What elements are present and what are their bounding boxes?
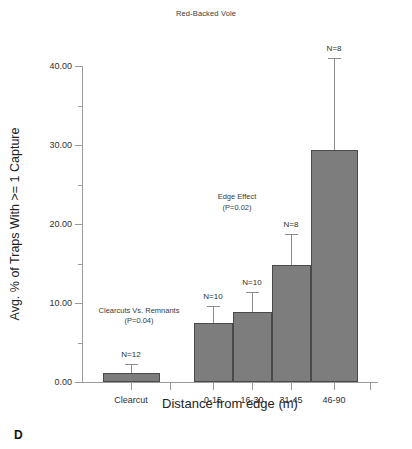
- y-tick-major: [75, 303, 83, 304]
- error-bar: [291, 234, 292, 265]
- y-tick-major: [75, 66, 83, 67]
- sample-size-label: N=12: [121, 350, 140, 359]
- error-bar-cap: [207, 306, 220, 307]
- x-tick: [370, 382, 371, 390]
- y-tick-minor: [78, 106, 83, 107]
- annotation-pvalue: (P=0.04): [99, 316, 180, 326]
- x-tick: [170, 382, 171, 390]
- y-tick-minor: [78, 264, 83, 265]
- bar: [194, 323, 233, 382]
- y-tick-label: 40.00: [49, 61, 72, 71]
- x-tick: [334, 382, 335, 390]
- y-tick-label: 30.00: [49, 140, 72, 150]
- y-tick-major: [75, 145, 83, 146]
- figure-panel: Red-Backed Vole 0.0010.0020.0030.0040.00…: [0, 0, 412, 449]
- x-axis-title: Distance from edge (m): [82, 396, 378, 411]
- annotation-edge-effect: Edge Effect(P=0.02): [218, 192, 257, 212]
- x-tick: [252, 382, 253, 390]
- y-tick-major: [75, 382, 83, 383]
- annotation-clearcuts-vs-remnants: Clearcuts Vs. Remnants(P=0.04): [99, 306, 180, 326]
- panel-letter: D: [14, 428, 23, 442]
- sample-size-label: N=8: [327, 44, 342, 53]
- y-tick-label: 0.00: [54, 377, 72, 387]
- error-bar-cap: [328, 58, 341, 59]
- bar: [272, 265, 311, 382]
- error-bar: [252, 292, 253, 312]
- sample-size-label: N=10: [242, 278, 261, 287]
- y-tick-minor: [78, 343, 83, 344]
- bar: [233, 312, 272, 382]
- annotation-line: Clearcuts Vs. Remnants: [99, 306, 180, 316]
- sample-size-label: N=8: [284, 220, 299, 229]
- y-axis-title: Avg. % of Traps With >= 1 Capture: [8, 66, 26, 382]
- y-tick-major: [75, 224, 83, 225]
- x-tick: [291, 382, 292, 390]
- error-bar-cap: [125, 364, 138, 365]
- error-bar-cap: [246, 292, 259, 293]
- x-tick: [213, 382, 214, 390]
- sample-size-label: N=10: [203, 292, 222, 301]
- bar: [311, 150, 358, 382]
- plot-area: 0.0010.0020.0030.0040.00N=12ClearcutN=10…: [82, 66, 378, 382]
- error-bar: [213, 306, 214, 323]
- y-tick-label: 20.00: [49, 219, 72, 229]
- y-tick-label: 10.00: [49, 298, 72, 308]
- annotation-pvalue: (P=0.02): [218, 203, 257, 213]
- error-bar: [334, 58, 335, 150]
- bar: [103, 373, 160, 382]
- chart-title: Red-Backed Vole: [0, 9, 412, 18]
- annotation-line: Edge Effect: [218, 192, 257, 202]
- error-bar: [131, 364, 132, 373]
- y-tick-minor: [78, 185, 83, 186]
- error-bar-cap: [285, 234, 298, 235]
- x-tick: [131, 382, 132, 390]
